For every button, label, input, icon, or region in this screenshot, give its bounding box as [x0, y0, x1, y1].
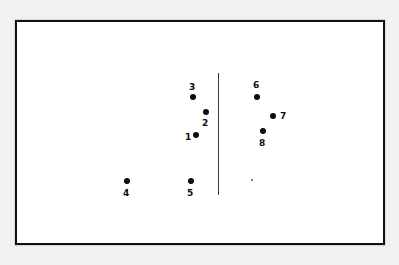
plot-frame: [15, 20, 385, 245]
screenshot-root: 12345678: [0, 0, 399, 265]
